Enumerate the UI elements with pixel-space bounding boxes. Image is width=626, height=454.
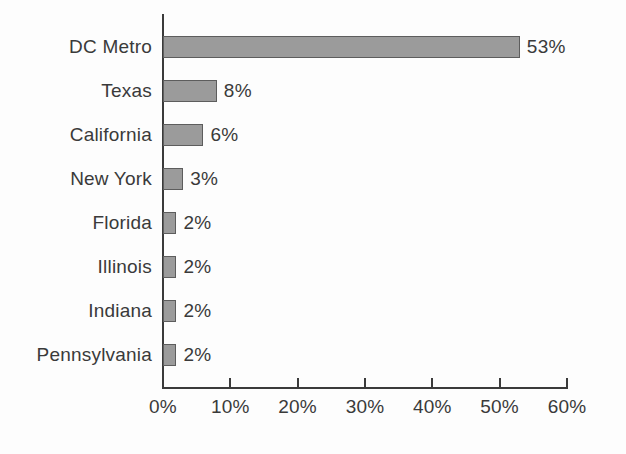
bar-row: Illinois2% [0, 256, 626, 278]
x-axis-tick [162, 378, 164, 388]
bar [163, 300, 176, 322]
x-axis-tick-label: 10% [211, 396, 250, 418]
x-axis-tick-label: 30% [346, 396, 385, 418]
bar-row: California6% [0, 124, 626, 146]
bar-row: New York3% [0, 168, 626, 190]
x-axis-tick-label: 0% [149, 396, 177, 418]
bar [163, 80, 217, 102]
x-axis-tick [229, 378, 231, 388]
category-label: DC Metro [69, 36, 152, 58]
bar [163, 212, 176, 234]
bar-value-label: 6% [210, 124, 238, 146]
bar-value-label: 2% [183, 256, 211, 278]
bar-chart: 0%10%20%30%40%50%60% DC Metro53%Texas8%C… [0, 0, 626, 454]
category-label: Texas [101, 80, 152, 102]
bar [163, 36, 520, 58]
category-label: Illinois [98, 256, 152, 278]
category-label: Florida [93, 212, 152, 234]
x-axis-tick-label: 20% [278, 396, 317, 418]
bar-value-label: 2% [183, 344, 211, 366]
x-axis-tick-label: 50% [480, 396, 519, 418]
bar-value-label: 8% [224, 80, 252, 102]
x-axis-tick-label: 60% [548, 396, 587, 418]
bar-row: Florida2% [0, 212, 626, 234]
x-axis-tick [499, 378, 501, 388]
x-axis-tick-label: 40% [413, 396, 452, 418]
x-axis-tick [566, 378, 568, 388]
bar-value-label: 2% [183, 212, 211, 234]
bar-value-label: 53% [527, 36, 566, 58]
category-label: New York [70, 168, 152, 190]
bar-row: Pennsylvania2% [0, 344, 626, 366]
x-axis-tick [431, 378, 433, 388]
bar-value-label: 2% [183, 300, 211, 322]
x-axis-tick [364, 378, 366, 388]
bar-row: Indiana2% [0, 300, 626, 322]
bar [163, 344, 176, 366]
bar-row: Texas8% [0, 80, 626, 102]
category-label: Pennsylvania [37, 344, 152, 366]
y-axis-line [162, 14, 164, 389]
bar-row: DC Metro53% [0, 36, 626, 58]
category-label: Indiana [88, 300, 152, 322]
x-axis-tick [297, 378, 299, 388]
category-label: California [70, 124, 152, 146]
bar [163, 124, 203, 146]
bar [163, 256, 176, 278]
bar-value-label: 3% [190, 168, 218, 190]
bar [163, 168, 183, 190]
